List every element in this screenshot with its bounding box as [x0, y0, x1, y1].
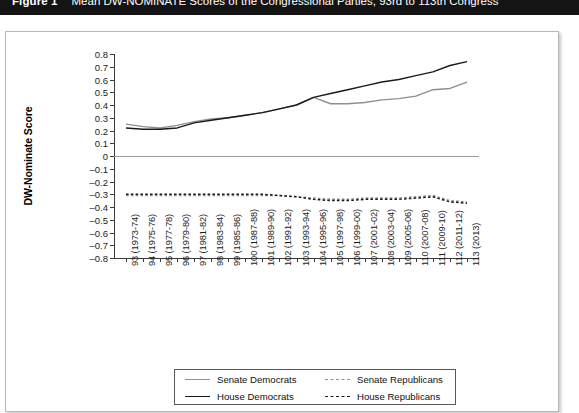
figure-caption-text: Mean DW-NOMINATE Scores of the Congressi…: [72, 0, 499, 7]
y-tick-label: 0: [103, 151, 108, 162]
legend-item-house-democrats: House Democrats: [185, 388, 294, 405]
figure-card: DW-Nominate Score 0.80.70.60.50.40.30.20…: [5, 31, 559, 412]
y-tick-label: –0.7: [90, 240, 109, 251]
x-tick: [331, 258, 332, 262]
y-tick-label: –0.6: [90, 227, 109, 238]
x-tick: [467, 258, 468, 262]
x-tick: [348, 258, 349, 262]
legend-item-senate-democrats: Senate Democrats: [185, 371, 296, 388]
y-tick-label: 0.6: [95, 74, 108, 85]
figure-caption-bar: Figure 1Mean DW-NOMINATE Scores of the C…: [0, 0, 579, 15]
y-tick-label: –0.4: [90, 202, 109, 213]
y-tick-label: 0.2: [95, 125, 108, 136]
legend-swatch-solid-light-icon: [185, 379, 210, 380]
y-tick-label: –0.1: [90, 163, 109, 174]
y-tick-label: –0.2: [90, 176, 109, 187]
x-tick: [211, 258, 212, 262]
x-tick: [399, 258, 400, 262]
legend-label-senate-republicans: Senate Republicans: [357, 374, 443, 385]
series-layer: [114, 54, 479, 258]
x-tick: [160, 258, 161, 262]
legend-row-1: Senate Democrats Senate Republicans: [175, 371, 455, 388]
y-tick-label: 0.8: [95, 49, 108, 60]
y-tick-label: 0.7: [95, 61, 108, 72]
legend-label-house-democrats: House Democrats: [217, 391, 294, 402]
plot-area: 0.80.70.60.50.40.30.20.10–0.1–0.2–0.3–0.…: [114, 54, 479, 258]
y-tick-label: 0.1: [95, 138, 108, 149]
x-tick: [177, 258, 178, 262]
x-tick: [228, 258, 229, 262]
y-tick-label: 0.5: [95, 87, 108, 98]
y-axis-title: DW-Nominate Score: [22, 54, 36, 258]
series-line-house-republicans: [126, 194, 467, 203]
x-tick: [382, 258, 383, 262]
y-tick: [110, 258, 114, 259]
legend-item-senate-republicans: Senate Republicans: [325, 371, 443, 388]
x-tick: [365, 258, 366, 262]
y-tick-label: 0.4: [95, 100, 108, 111]
x-tick: [245, 258, 246, 262]
legend-swatch-dash-dark-icon: [325, 396, 350, 397]
legend-row-2: House Democrats House Republicans: [175, 388, 455, 405]
x-tick: [194, 258, 195, 262]
x-tick: [262, 258, 263, 262]
x-tick: [416, 258, 417, 262]
x-tick: [450, 258, 451, 262]
legend-swatch-dash-light-icon: [325, 379, 350, 380]
x-tick: [433, 258, 434, 262]
x-tick: [126, 258, 127, 262]
x-tick: [297, 258, 298, 262]
legend-swatch-solid-dark-icon: [185, 396, 210, 397]
y-tick-label: 0.3: [95, 112, 108, 123]
legend-item-house-republicans: House Republicans: [325, 388, 440, 405]
y-tick-label: –0.5: [90, 214, 109, 225]
legend-label-house-republicans: House Republicans: [357, 391, 440, 402]
x-tick: [314, 258, 315, 262]
y-tick-label: –0.8: [90, 253, 109, 264]
x-tick: [143, 258, 144, 262]
dw-nominate-line-chart: DW-Nominate Score 0.80.70.60.50.40.30.20…: [6, 32, 560, 413]
x-tick: [279, 258, 280, 262]
y-tick-label: –0.3: [90, 189, 109, 200]
legend-label-senate-democrats: Senate Democrats: [217, 374, 296, 385]
page-body: DW-Nominate Score 0.80.70.60.50.40.30.20…: [0, 15, 579, 404]
figure-caption-label: Figure 1: [12, 0, 58, 7]
figure-caption: Figure 1Mean DW-NOMINATE Scores of the C…: [12, 0, 499, 9]
chart-legend: Senate Democrats Senate Republicans Hous…: [174, 369, 456, 405]
